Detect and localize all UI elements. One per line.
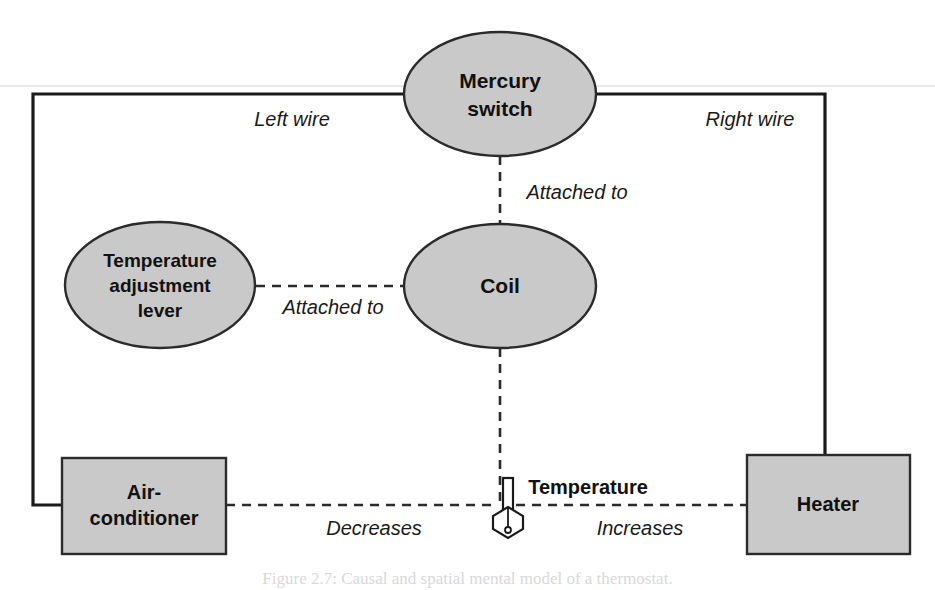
lever-to-coil-label: Attached to xyxy=(281,296,383,318)
air-conditioner-label-line2: conditioner xyxy=(90,507,199,529)
thermostat-diagram: Air- conditioner Heater Mercury switch C… xyxy=(0,0,935,590)
lever-label-line3: lever xyxy=(138,300,183,321)
temperature-label: Temperature xyxy=(528,476,648,498)
mercury-switch-label-line1: Mercury xyxy=(459,69,541,92)
thermometer-icon xyxy=(493,478,523,538)
mercury-switch-label-line2: switch xyxy=(467,97,532,120)
mercury-switch-ellipse xyxy=(404,32,596,156)
airconditioner-to-temperature-label: Decreases xyxy=(326,517,422,539)
figure-caption: Figure 2.7: Causal and spatial mental mo… xyxy=(0,567,935,590)
node-air-conditioner[interactable]: Air- conditioner xyxy=(62,458,226,554)
node-heater[interactable]: Heater xyxy=(747,455,910,554)
thermometer-bulb-dot xyxy=(505,527,511,533)
node-coil[interactable]: Coil xyxy=(404,224,596,348)
heater-to-temperature-label: Increases xyxy=(597,517,684,539)
heater-label: Heater xyxy=(797,493,859,515)
switch-to-coil-label: Attached to xyxy=(525,181,627,203)
figure-container: Air- conditioner Heater Mercury switch C… xyxy=(0,0,935,590)
node-temperature-adjustment-lever[interactable]: Temperature adjustment lever xyxy=(65,222,255,348)
lever-label-line1: Temperature xyxy=(103,250,217,271)
lever-label-line2: adjustment xyxy=(109,275,211,296)
right-wire-path xyxy=(596,94,825,458)
air-conditioner-label-line1: Air- xyxy=(127,481,161,503)
node-mercury-switch[interactable]: Mercury switch xyxy=(404,32,596,156)
left-wire-label: Left wire xyxy=(254,108,330,130)
right-wire-label: Right wire xyxy=(706,108,795,130)
coil-label: Coil xyxy=(480,274,520,297)
air-conditioner-box xyxy=(62,458,226,554)
